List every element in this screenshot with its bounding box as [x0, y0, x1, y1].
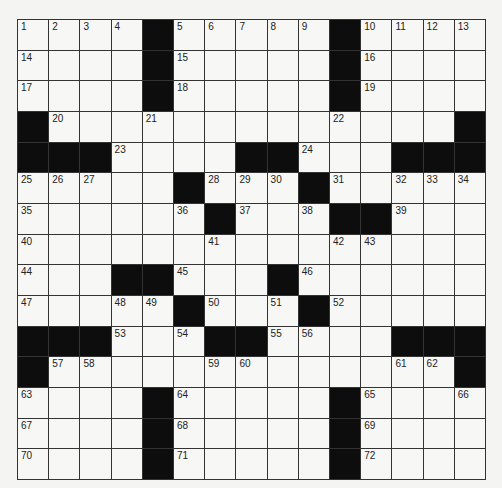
grid-cell[interactable]	[236, 296, 266, 326]
grid-cell[interactable]: 21	[143, 112, 173, 142]
grid-cell[interactable]: 65	[361, 388, 391, 418]
grid-cell[interactable]	[299, 419, 329, 449]
grid-cell[interactable]	[392, 265, 422, 295]
grid-cell[interactable]	[49, 81, 79, 111]
grid-cell[interactable]	[268, 419, 298, 449]
grid-cell[interactable]	[205, 265, 235, 295]
grid-cell[interactable]	[112, 51, 142, 81]
grid-cell[interactable]	[205, 81, 235, 111]
grid-cell[interactable]: 20	[49, 112, 79, 142]
grid-cell[interactable]	[268, 449, 298, 479]
grid-cell[interactable]: 67	[18, 419, 48, 449]
grid-cell[interactable]: 45	[174, 265, 204, 295]
grid-cell[interactable]	[455, 81, 485, 111]
grid-cell[interactable]	[392, 449, 422, 479]
grid-cell[interactable]: 46	[299, 265, 329, 295]
grid-cell[interactable]	[392, 51, 422, 81]
grid-cell[interactable]	[424, 419, 454, 449]
grid-cell[interactable]	[424, 388, 454, 418]
grid-cell[interactable]	[361, 327, 391, 357]
grid-cell[interactable]	[330, 327, 360, 357]
grid-cell[interactable]: 63	[18, 388, 48, 418]
grid-cell[interactable]	[455, 296, 485, 326]
grid-cell[interactable]	[361, 143, 391, 173]
grid-cell[interactable]: 53	[112, 327, 142, 357]
grid-cell[interactable]	[143, 235, 173, 265]
grid-cell[interactable]	[455, 265, 485, 295]
grid-cell[interactable]	[80, 235, 110, 265]
grid-cell[interactable]: 49	[143, 296, 173, 326]
grid-cell[interactable]	[455, 204, 485, 234]
grid-cell[interactable]	[49, 419, 79, 449]
grid-cell[interactable]: 12	[424, 20, 454, 50]
grid-cell[interactable]	[392, 419, 422, 449]
grid-cell[interactable]	[299, 81, 329, 111]
grid-cell[interactable]: 34	[455, 173, 485, 203]
grid-cell[interactable]	[112, 235, 142, 265]
grid-cell[interactable]	[392, 388, 422, 418]
grid-cell[interactable]	[205, 388, 235, 418]
grid-cell[interactable]	[80, 449, 110, 479]
grid-cell[interactable]: 26	[49, 173, 79, 203]
grid-cell[interactable]: 38	[299, 204, 329, 234]
grid-cell[interactable]: 55	[268, 327, 298, 357]
grid-cell[interactable]: 56	[299, 327, 329, 357]
grid-cell[interactable]	[268, 235, 298, 265]
grid-cell[interactable]	[174, 112, 204, 142]
grid-cell[interactable]: 2	[49, 20, 79, 50]
grid-cell[interactable]	[455, 449, 485, 479]
grid-cell[interactable]	[112, 449, 142, 479]
grid-cell[interactable]: 54	[174, 327, 204, 357]
grid-cell[interactable]	[424, 296, 454, 326]
grid-cell[interactable]	[236, 419, 266, 449]
grid-cell[interactable]	[455, 419, 485, 449]
grid-cell[interactable]	[361, 265, 391, 295]
grid-cell[interactable]	[236, 51, 266, 81]
grid-cell[interactable]	[174, 143, 204, 173]
grid-cell[interactable]	[392, 296, 422, 326]
grid-cell[interactable]	[424, 449, 454, 479]
grid-cell[interactable]	[392, 235, 422, 265]
grid-cell[interactable]: 17	[18, 81, 48, 111]
grid-cell[interactable]: 52	[330, 296, 360, 326]
grid-cell[interactable]	[112, 81, 142, 111]
grid-cell[interactable]: 9	[299, 20, 329, 50]
grid-cell[interactable]: 22	[330, 112, 360, 142]
grid-cell[interactable]	[49, 449, 79, 479]
grid-cell[interactable]: 30	[268, 173, 298, 203]
grid-cell[interactable]	[236, 112, 266, 142]
grid-cell[interactable]	[361, 112, 391, 142]
grid-cell[interactable]	[80, 204, 110, 234]
grid-cell[interactable]	[205, 112, 235, 142]
grid-cell[interactable]: 64	[174, 388, 204, 418]
grid-cell[interactable]	[236, 449, 266, 479]
grid-cell[interactable]	[143, 173, 173, 203]
grid-cell[interactable]	[392, 112, 422, 142]
grid-cell[interactable]	[424, 81, 454, 111]
grid-cell[interactable]	[455, 51, 485, 81]
grid-cell[interactable]	[268, 112, 298, 142]
grid-cell[interactable]: 8	[268, 20, 298, 50]
grid-cell[interactable]	[112, 173, 142, 203]
grid-cell[interactable]: 60	[236, 357, 266, 387]
grid-cell[interactable]	[143, 143, 173, 173]
grid-cell[interactable]	[361, 173, 391, 203]
grid-cell[interactable]	[205, 51, 235, 81]
grid-cell[interactable]: 57	[49, 357, 79, 387]
grid-cell[interactable]: 32	[392, 173, 422, 203]
grid-cell[interactable]: 71	[174, 449, 204, 479]
grid-cell[interactable]	[49, 204, 79, 234]
grid-cell[interactable]	[174, 235, 204, 265]
grid-cell[interactable]	[424, 235, 454, 265]
grid-cell[interactable]	[80, 51, 110, 81]
grid-cell[interactable]: 28	[205, 173, 235, 203]
grid-cell[interactable]	[299, 449, 329, 479]
grid-cell[interactable]: 69	[361, 419, 391, 449]
grid-cell[interactable]	[330, 265, 360, 295]
grid-cell[interactable]: 25	[18, 173, 48, 203]
grid-cell[interactable]	[49, 388, 79, 418]
grid-cell[interactable]	[268, 388, 298, 418]
grid-cell[interactable]	[392, 81, 422, 111]
grid-cell[interactable]: 4	[112, 20, 142, 50]
grid-cell[interactable]: 5	[174, 20, 204, 50]
